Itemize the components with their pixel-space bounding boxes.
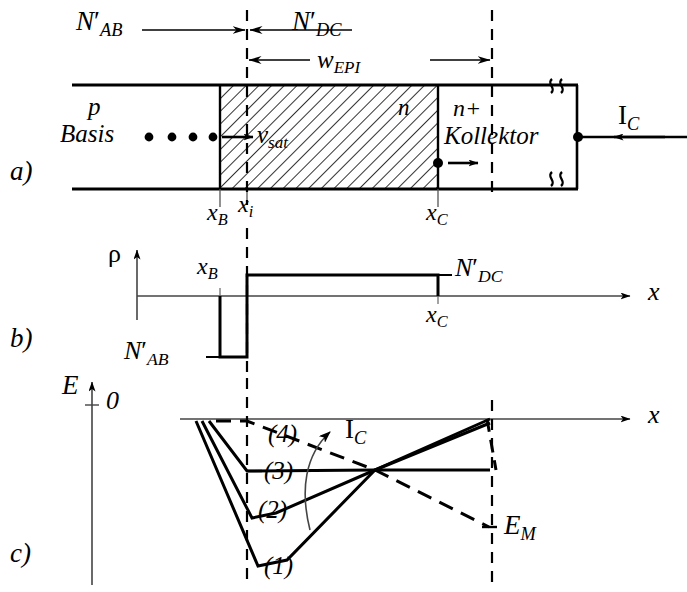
panel-a-id: a) — [10, 158, 33, 185]
panel-c-id: c) — [10, 540, 31, 567]
level-label-ndc: N′DC — [455, 255, 503, 285]
label-region-n: n — [398, 96, 410, 119]
label-region-basis: Basis — [60, 121, 114, 146]
panel-c-group — [85, 382, 630, 585]
break-squiggle-bottom-icon — [550, 172, 563, 186]
carrier-dot — [145, 133, 154, 142]
carrier-dot — [168, 133, 177, 142]
panel-b-yaxis-label: ρ — [108, 241, 121, 267]
carrier-dot — [209, 133, 218, 142]
label-region-kollektor: Kollektor — [444, 123, 538, 148]
carrier-dot — [189, 133, 198, 142]
label-region-p: p — [88, 94, 101, 119]
panel-b-xaxis-label: x — [648, 279, 660, 305]
panel-c-xaxis-label: x — [648, 402, 660, 428]
tick-label-xc-panel-b: xC — [426, 302, 448, 331]
panel-a-group — [72, 30, 687, 207]
label-ndc-top: N′DC — [292, 8, 341, 39]
ic-trend-arrow — [305, 432, 330, 530]
label-ic-panel-a: IC — [618, 102, 639, 133]
label-vsat: vsat — [257, 122, 288, 151]
label-em: EM — [504, 512, 536, 543]
level-label-nab: N′AB — [124, 338, 169, 368]
panel-b-id: b) — [10, 325, 33, 352]
curve-label-1: (1) — [264, 553, 293, 578]
tick-label-xi-panel-a: xi — [238, 192, 253, 221]
tick-label-xb-panel-a: xB — [207, 200, 228, 229]
curve-label-3: (3) — [264, 458, 293, 483]
collector-carrier-dot — [433, 158, 443, 168]
tick-label-xc-panel-a: xC — [426, 200, 448, 229]
figure-root — [0, 0, 687, 592]
panel-c-zero-label: 0 — [106, 388, 119, 414]
curve-label-4: (4) — [268, 421, 297, 446]
label-wepi: wEPI — [317, 47, 360, 76]
tick-label-xb-panel-b: xB — [197, 254, 218, 283]
label-region-nplus: n+ — [453, 96, 481, 120]
panel-c-yaxis-label: E — [62, 372, 79, 399]
label-ic-panel-c: IC — [345, 416, 366, 447]
label-nab-top: N′AB — [76, 8, 122, 39]
charge-density-profile — [220, 275, 438, 357]
curve-label-2: (2) — [258, 497, 287, 522]
